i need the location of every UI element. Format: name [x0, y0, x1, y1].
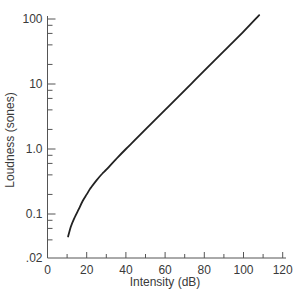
y-tick-label: 1.0: [26, 142, 43, 156]
x-axis: 020406080100120: [44, 252, 293, 277]
plot-area: [68, 15, 259, 236]
loudness-chart: 020406080100120 .020.11.010100 Intensity…: [0, 0, 302, 300]
y-axis: .020.11.010100: [22, 12, 55, 265]
x-tick-label: 20: [80, 263, 94, 277]
y-tick-label: .02: [26, 251, 43, 265]
x-tick-label: 0: [44, 263, 51, 277]
loudness-curve: [68, 15, 259, 236]
x-axis-title: Intensity (dB): [130, 275, 201, 289]
x-tick-label: 100: [233, 263, 253, 277]
y-tick-label: 100: [22, 12, 42, 26]
y-tick-label: 0.1: [26, 207, 43, 221]
x-tick-label: 120: [273, 263, 293, 277]
y-axis-title: Loudness (sones): [3, 92, 17, 187]
y-tick-label: 10: [29, 77, 43, 91]
